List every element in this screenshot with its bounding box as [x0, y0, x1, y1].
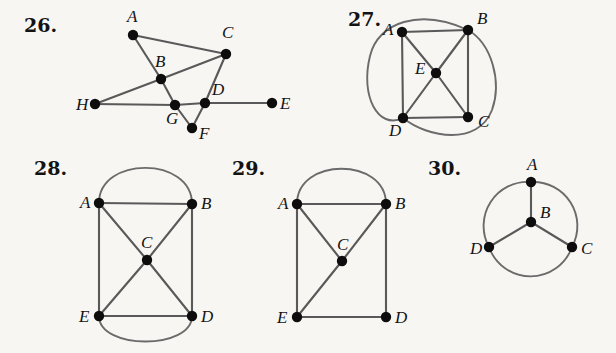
vertex-label-B: B — [201, 194, 212, 213]
edge-D-C — [403, 117, 468, 118]
edge-C-E — [436, 73, 468, 117]
figure-26: ABCDEFGH26. — [24, 7, 291, 143]
edge-D-E — [403, 73, 436, 118]
vertex-B[interactable] — [463, 25, 473, 35]
vertex-label-E: E — [276, 308, 288, 327]
edge-B-E — [436, 30, 468, 73]
vertex-C[interactable] — [337, 256, 347, 266]
vertex-label-C: C — [141, 233, 153, 252]
vertex-label-D: D — [211, 80, 225, 99]
vertex-E[interactable] — [267, 98, 277, 108]
edge-arc-A-B — [297, 169, 386, 204]
graph-theory-figure-panel: ABCDEFGH26.ABCDE27.ABCDE28.ABCDE29.ABCD3… — [0, 0, 616, 353]
vertex-E[interactable] — [431, 68, 441, 78]
figure-27: ABCDE27. — [348, 8, 496, 140]
vertex-B[interactable] — [526, 217, 536, 227]
vertex-label-D: D — [394, 308, 408, 327]
vertex-A[interactable] — [128, 30, 138, 40]
edge-C-E — [99, 260, 147, 316]
edge-A-B — [99, 203, 192, 204]
vertex-label-A: A — [126, 7, 138, 26]
vertex-A[interactable] — [94, 198, 104, 208]
figure-29: ABCDE29. — [232, 157, 408, 327]
vertex-H[interactable] — [90, 99, 100, 109]
vertex-C[interactable] — [567, 242, 577, 252]
figure-28: ABCDE28. — [34, 157, 214, 342]
vertex-label-A: A — [79, 193, 91, 212]
vertex-label-C: C — [581, 239, 593, 258]
vertex-label-A: A — [277, 194, 289, 213]
vertex-B[interactable] — [187, 199, 197, 209]
problem-number-26: 26. — [24, 14, 57, 36]
edge-B-C — [531, 222, 572, 247]
figures-layer: ABCDEFGH26.ABCDE27.ABCDE28.ABCDE29.ABCD3… — [24, 7, 593, 342]
vertex-label-E: E — [279, 94, 291, 113]
vertex-label-C: C — [337, 235, 349, 254]
problem-number-29: 29. — [232, 157, 265, 179]
vertex-A[interactable] — [292, 199, 302, 209]
vertex-label-C: C — [222, 23, 234, 42]
vertex-label-B: B — [395, 194, 406, 213]
vertex-label-A: A — [382, 20, 394, 39]
edge-B-D — [489, 222, 531, 247]
vertex-E[interactable] — [94, 311, 104, 321]
vertex-B[interactable] — [381, 199, 391, 209]
vertex-D[interactable] — [200, 98, 210, 108]
vertex-label-B: B — [540, 203, 551, 222]
vertex-C[interactable] — [221, 49, 231, 59]
edge-arc-E-D — [99, 316, 192, 342]
vertex-label-A: A — [526, 155, 538, 174]
vertex-label-D: D — [200, 307, 214, 326]
edge-A-D — [402, 32, 403, 118]
vertex-label-F: F — [198, 124, 210, 143]
edge-B-C — [342, 204, 386, 261]
vertex-label-B: B — [155, 52, 166, 71]
edge-A-C — [297, 204, 342, 261]
edge-arc-C-D — [489, 247, 572, 276]
problem-number-27: 27. — [348, 8, 381, 30]
edge-A-B — [402, 30, 468, 32]
vertex-B[interactable] — [156, 74, 166, 84]
edge-B-C — [147, 204, 192, 260]
edge-C-E — [297, 261, 342, 317]
vertex-label-C: C — [478, 112, 490, 131]
vertex-C[interactable] — [142, 255, 152, 265]
edge-A-C — [99, 203, 147, 260]
vertex-F[interactable] — [187, 123, 197, 133]
vertex-E[interactable] — [292, 312, 302, 322]
vertex-label-G: G — [166, 109, 178, 128]
vertex-label-B: B — [477, 9, 488, 28]
vertex-label-E: E — [78, 307, 90, 326]
vertex-D[interactable] — [484, 242, 494, 252]
vertex-label-E: E — [414, 59, 426, 78]
vertex-D[interactable] — [187, 311, 197, 321]
edge-C-D — [147, 260, 192, 316]
problem-number-30: 30. — [428, 157, 461, 179]
vertex-D[interactable] — [381, 312, 391, 322]
figure-canvas: ABCDEFGH26.ABCDE27.ABCDE28.ABCDE29.ABCD3… — [0, 0, 616, 353]
edge-A-C — [133, 35, 226, 54]
edge-H-B — [95, 79, 161, 104]
vertex-C[interactable] — [463, 112, 473, 122]
edge-H-G — [95, 104, 175, 105]
vertex-A[interactable] — [526, 177, 536, 187]
vertex-label-D: D — [388, 121, 402, 140]
vertex-label-H: H — [75, 95, 90, 114]
figure-30: ABCD30. — [428, 155, 593, 276]
edge-arc-A-B — [99, 168, 192, 204]
vertex-A[interactable] — [397, 27, 407, 37]
vertex-label-D: D — [469, 239, 483, 258]
problem-number-28: 28. — [34, 157, 67, 179]
